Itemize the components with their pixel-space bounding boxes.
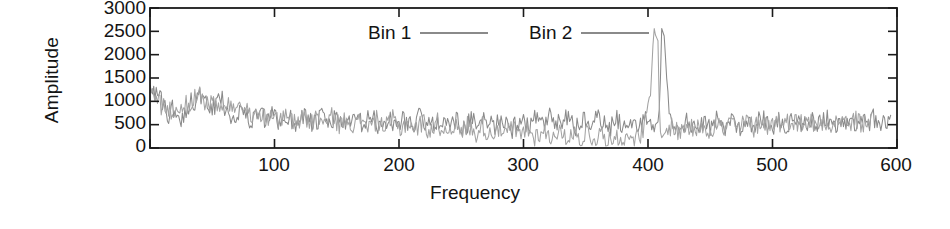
legend-label-bin-1: Bin 1 [368,22,411,44]
legend-entry-bin-1[interactable]: Bin 1 [368,22,488,44]
y-tick-label: 500 [114,113,146,132]
y-tick-label: 1000 [104,90,146,109]
x-axis-title: Frequency [0,182,950,204]
x-tick-label: 300 [507,155,539,175]
chart-figure: Amplitude 3000 2500 2000 1500 1000 500 0… [0,0,950,229]
x-axis-tick-labels: 100 200 300 400 500 600 [0,155,950,183]
legend-label-bin-2: Bin 2 [529,22,572,44]
legend-line-bin-1 [420,32,488,34]
x-tick-label: 500 [756,155,788,175]
y-tick-label: 1500 [104,67,146,86]
x-tick-label: 600 [880,155,912,175]
x-tick-label: 400 [632,155,664,175]
x-tick-label: 200 [383,155,415,175]
x-tick-label: 100 [258,155,290,175]
y-tick-label: 0 [135,136,146,155]
chart-legend: Bin 1 Bin 2 [0,0,950,60]
legend-line-bin-2 [581,32,649,34]
legend-entry-bin-2[interactable]: Bin 2 [529,22,649,44]
